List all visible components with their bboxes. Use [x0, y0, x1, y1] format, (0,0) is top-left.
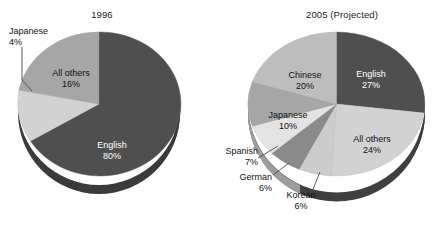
- pie-1996-japanese-pct: 4%: [9, 37, 48, 48]
- pie-2005: English 27% All others 24% Chinese 20% J…: [248, 32, 425, 202]
- pie-2005-japanese-pct: 10%: [279, 121, 297, 131]
- pie-2005-chinese-name: Chinese: [288, 70, 321, 80]
- pie-1996-japanese-callout: Japanese 4%: [9, 26, 48, 48]
- pie-2005-japanese-name: Japanese: [268, 110, 307, 120]
- pie-2005-korean-name: Korean: [286, 190, 315, 200]
- pie-1996-allothers-pct: 16%: [62, 79, 80, 89]
- pie-2005-spanish-name: Spanish: [225, 146, 258, 156]
- pie-2005-german-pct: 6%: [216, 183, 272, 194]
- pie-1996-japanese-name: Japanese: [9, 26, 48, 36]
- pie-1996-english-name: English: [97, 140, 127, 150]
- pie-1996-allothers-name: All others: [52, 68, 90, 78]
- pie-2005-german-callout: German 6%: [216, 172, 272, 194]
- pie-1996-english-pct: 80%: [103, 151, 121, 161]
- pie-2005-english-name: English: [356, 69, 386, 79]
- pie-chart-figure: 1996 2005 (Projected) English 80% All ot…: [0, 0, 437, 230]
- pie-2005-english-pct: 27%: [362, 80, 380, 90]
- pie-2005-spanish-callout: Spanish 7%: [202, 146, 258, 168]
- pie-2005-allothers-pct: 24%: [363, 145, 381, 155]
- pie-2005-chinese-pct: 20%: [296, 81, 314, 91]
- pie-2005-spanish-pct: 7%: [202, 157, 258, 168]
- pie-2005-german-name: German: [239, 172, 272, 182]
- pie-charts-svg: English 80% All others 16%: [0, 0, 437, 230]
- pie-2005-korean-callout: Korean 6%: [274, 190, 328, 212]
- pie-1996: English 80% All others 16%: [18, 32, 181, 194]
- pie-2005-allothers-name: All others: [353, 134, 391, 144]
- pie-2005-korean-pct: 6%: [274, 201, 328, 212]
